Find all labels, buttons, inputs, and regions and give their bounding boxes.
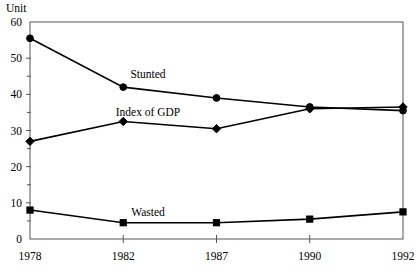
data-point-marker [213,220,219,226]
series-inline-label: Index of GDP [116,106,181,118]
y-axis-tick-label: 60 [11,16,23,28]
x-axis-tick-label: 1992 [392,250,415,262]
y-axis-tick-label: 50 [11,52,23,64]
data-point-marker [120,84,127,91]
x-axis-tick-label: 1987 [205,250,228,262]
series-inline-label: Wasted [131,206,165,218]
y-axis-tick-label: 30 [11,125,23,137]
chart-background [0,0,416,272]
x-axis-tick-label: 1982 [112,250,135,262]
x-axis-tick-label: 1978 [19,250,42,262]
chart-container: Unit 0102030405060 19781982198719901992 … [0,0,416,272]
data-point-marker [120,220,126,226]
y-axis-unit-label: Unit [6,2,27,14]
x-axis-tick-label: 1990 [298,250,321,262]
data-point-marker [213,95,220,102]
line-chart: Unit 0102030405060 19781982198719901992 … [0,0,416,272]
y-axis-tick-label: 20 [11,161,23,173]
y-axis-tick-label: 0 [16,233,22,245]
y-axis-tick-label: 40 [11,88,23,100]
data-point-marker [307,216,313,222]
series-inline-label: Stunted [130,68,165,80]
data-point-marker [27,35,34,42]
y-axis-tick-label: 10 [11,197,23,209]
data-point-marker [400,209,406,215]
data-point-marker [27,207,33,213]
